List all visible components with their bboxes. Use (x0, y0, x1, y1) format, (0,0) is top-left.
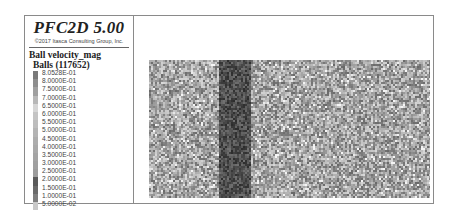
colorbar-segment (33, 120, 38, 128)
colorbar-tick-label: 5.5000E-01 (42, 118, 76, 126)
colorbar-segment (33, 145, 38, 153)
colorbar (33, 71, 38, 210)
legend-divider (29, 47, 129, 48)
copyright-text: ©2017 Itasca Consulting Group, Inc. (25, 38, 133, 44)
colorbar-segment (33, 104, 38, 112)
colorbar-tick-label: 3.0000E-01 (42, 159, 76, 167)
colorbar-tick-label: 7.0000E-01 (42, 94, 76, 102)
colorbar-tick-label: 6.0000E-01 (42, 110, 76, 118)
colorbar-segment (33, 137, 38, 145)
app-title: PFC2D 5.00 (25, 18, 133, 38)
colorbar-segment (33, 128, 38, 136)
colorbar-segment (33, 153, 38, 161)
colorbar-tick-label: 7.5000E-01 (42, 85, 76, 93)
variable-label: Ball velocity_mag (29, 50, 101, 60)
colorbar-segment (33, 112, 38, 120)
particle-field (149, 60, 430, 198)
colorbar-segment (33, 79, 38, 87)
colorbar-segment (33, 177, 38, 185)
colorbar-tick-label: 8.0000E-01 (42, 77, 76, 85)
pfc-plot-frame: PFC2D 5.00 ©2017 Itasca Consulting Group… (24, 15, 434, 204)
colorbar-tick-label: 2.5000E-01 (42, 167, 76, 175)
colorbar-tick-label: 4.5000E-01 (42, 135, 76, 143)
colorbar-tick-label: 1.5000E-01 (42, 184, 76, 192)
colorbar-segment (33, 202, 38, 210)
ball-velocity-plot (149, 60, 430, 198)
colorbar-segment (33, 96, 38, 104)
colorbar-segment (33, 161, 38, 169)
colorbar-tick-label: 2.0000E-01 (42, 175, 76, 183)
colorbar-tick-labels: 8.0528E-018.0000E-017.5000E-017.0000E-01… (42, 69, 76, 208)
legend-panel: PFC2D 5.00 ©2017 Itasca Consulting Group… (25, 16, 134, 203)
colorbar-segment (33, 169, 38, 177)
colorbar-tick-label: 8.0528E-01 (42, 69, 76, 77)
colorbar-segment (33, 194, 38, 202)
colorbar-tick-label: 3.5000E-01 (42, 151, 76, 159)
colorbar-segment (33, 186, 38, 194)
colorbar-tick-label: 4.0000E-01 (42, 143, 76, 151)
colorbar-tick-label: 5.0000E-02 (42, 200, 76, 208)
colorbar-segment (33, 71, 38, 79)
colorbar-tick-label: 1.0000E-01 (42, 192, 76, 200)
colorbar-tick-label: 5.0000E-01 (42, 126, 76, 134)
colorbar-tick-label: 6.5000E-01 (42, 102, 76, 110)
colorbar-segment (33, 87, 38, 95)
